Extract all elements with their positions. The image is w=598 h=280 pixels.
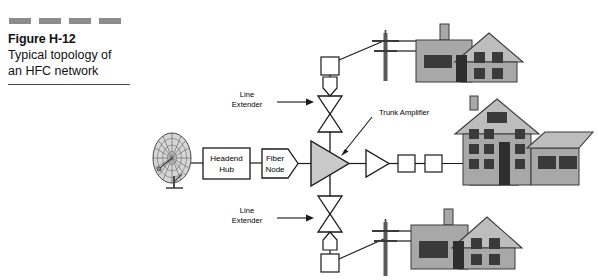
fiber-node: Fiber Node: [262, 149, 298, 178]
house-upper-right: [416, 24, 523, 82]
headend-hub-label-line1: Headend: [210, 154, 242, 163]
figure-caption-line-1: Typical topology of: [8, 48, 112, 62]
distribution-amplifier-symbol: [366, 150, 389, 177]
fiber-node-label-line1: Fiber: [266, 154, 285, 163]
line-extender-upper-housing: [323, 77, 337, 96]
tap-box-upper: [321, 57, 339, 75]
line-extender-upper-label-line2: Extender: [232, 100, 263, 109]
figure-caption-line-2: an HFC network: [8, 64, 98, 78]
headend-hub-node: Headend Hub: [203, 148, 250, 179]
line-extender-upper-arrow: [277, 99, 314, 106]
line-extender-upper-symbol: [318, 96, 342, 132]
headend-hub-label-line2: Hub: [219, 165, 234, 174]
caption-dash-decoration: [9, 18, 121, 24]
apartment-building-middle: [455, 96, 593, 185]
dash-segment: [99, 18, 121, 24]
line-extender-lower-symbol: [318, 196, 342, 232]
tap-box-lower: [321, 254, 339, 272]
line-extender-lower-arrow: [277, 215, 314, 222]
hfc-network-diagram: Headend Hub Fiber Node Trunk Amplifier: [0, 0, 598, 280]
figure-title: Figure H-12: [8, 32, 76, 46]
tap-box-middle-2: [425, 155, 442, 172]
house-lower-right: [411, 209, 522, 269]
caption-divider: [8, 84, 130, 85]
utility-pole-upper: [372, 30, 399, 81]
line-extender-lower-label-line1: Line: [240, 206, 254, 215]
line-extender-lower-housing: [323, 232, 337, 250]
dash-segment: [69, 18, 91, 24]
utility-pole-lower: [372, 219, 399, 276]
dash-segment: [39, 18, 61, 24]
trunk-amplifier-label: Trunk Amplifier: [379, 108, 430, 117]
tap-box-middle-1: [398, 155, 415, 172]
line-extender-lower-label-line2: Extender: [232, 216, 263, 225]
fiber-node-label-line2: Node: [265, 165, 285, 174]
figure-container: Figure H-12 Typical topology of an HFC n…: [0, 0, 598, 280]
dash-segment: [9, 18, 31, 24]
line-extender-upper-label-line1: Line: [240, 90, 254, 99]
satellite-dish-icon: [153, 133, 191, 188]
